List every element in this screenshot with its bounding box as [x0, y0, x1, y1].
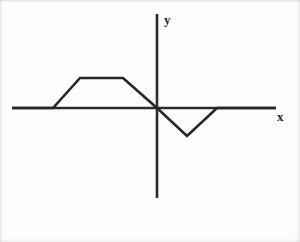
y-axis-label: y [164, 13, 171, 26]
coordinate-plot [0, 0, 300, 242]
x-axis-label: x [277, 110, 284, 123]
figure-canvas: y x [0, 0, 300, 242]
